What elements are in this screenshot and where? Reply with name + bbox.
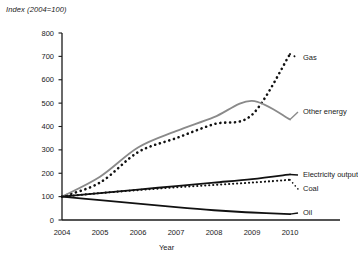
y-tick-label: 400 (28, 122, 54, 131)
series-leader-coal (290, 180, 298, 189)
series-line-oil (62, 197, 290, 215)
y-tick-label: 800 (28, 29, 54, 38)
y-tick-label: 300 (28, 145, 54, 154)
series-leader-oil (290, 213, 298, 214)
series-label-gas: Gas (303, 53, 317, 62)
y-tick-label: 600 (28, 75, 54, 84)
series-leader-electricity-output (290, 174, 298, 175)
x-tick-label: 2006 (123, 228, 153, 237)
series-line-electricity-output (62, 174, 290, 196)
series-leader-gas (290, 54, 298, 58)
y-tick-label: 0 (28, 216, 54, 225)
y-tick-label: 100 (28, 192, 54, 201)
x-tick-label: 2004 (47, 228, 77, 237)
series-label-electricity-output: Electricity output (303, 170, 358, 179)
x-tick-label: 2010 (275, 228, 305, 237)
series-label-oil: Oil (303, 208, 312, 217)
series-line-gas (62, 54, 290, 197)
y-tick-label: 200 (28, 169, 54, 178)
series-label-coal: Coal (303, 184, 318, 193)
series-leader-other-energy (290, 112, 298, 119)
y-tick-label: 700 (28, 52, 54, 61)
y-tick-label: 500 (28, 99, 54, 108)
series-label-other-energy: Other energy (303, 107, 347, 116)
x-tick-label: 2009 (237, 228, 267, 237)
x-tick-label: 2007 (161, 228, 191, 237)
x-tick-label: 2005 (85, 228, 115, 237)
x-axis-title: Year (159, 243, 174, 252)
x-tick-label: 2008 (199, 228, 229, 237)
